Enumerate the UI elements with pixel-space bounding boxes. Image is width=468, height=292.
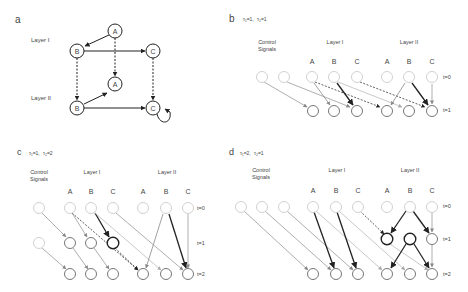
node-t0 (427, 202, 438, 213)
layer2-label: Layer II (400, 39, 419, 45)
node-t1 (329, 106, 340, 117)
node-t0 (86, 203, 97, 214)
time-label: t=1 (443, 107, 451, 113)
label-layer1: Layer I (31, 37, 50, 43)
node-t0 (138, 203, 149, 214)
node-t0 (352, 72, 363, 83)
node-t1 (427, 234, 438, 245)
panel-b: b τ₁=1, τ₂=1 Control Signals Layer I Lay… (229, 13, 451, 117)
column-label: A (68, 188, 73, 195)
node-t0 (404, 72, 415, 83)
node-t0 (405, 202, 416, 213)
column-label: C (185, 188, 190, 195)
node-t0 (34, 203, 45, 214)
node-t2 (86, 269, 97, 280)
layer1-label: Layer I (84, 169, 101, 175)
column-label: A (141, 188, 146, 195)
node-t2 (65, 269, 76, 280)
node-t2 (353, 269, 364, 280)
panel-letter-a: a (15, 14, 21, 25)
panel-letter-d: d (229, 147, 234, 157)
column-label: B (332, 58, 337, 65)
time-label: t=2 (197, 271, 205, 277)
node-t2 (161, 269, 172, 280)
node-t0 (279, 202, 290, 213)
panel-d: d τ₁=2, τ₂=1 Control Signals Layer I Lay… (229, 147, 451, 280)
control-signals-label: Control (258, 39, 276, 45)
node-t0 (382, 72, 393, 83)
column-label: C (110, 188, 115, 195)
column-label: C (355, 187, 360, 194)
node-t0 (236, 202, 247, 213)
tau1-label: τ₁=2, (240, 150, 251, 156)
node-t2 (382, 269, 393, 280)
node-t2 (331, 269, 342, 280)
node-t0 (257, 72, 268, 83)
time-label: t=0 (443, 74, 451, 80)
control-signals-label: Signals (258, 46, 276, 52)
node-t0 (257, 202, 268, 213)
node-label: A (113, 28, 118, 35)
node-t0 (183, 203, 194, 214)
control-signals-label: Signals (30, 176, 48, 182)
column-label: C (429, 187, 434, 194)
figure-canvas: a Layer I Layer II A B C A B (0, 0, 468, 292)
node-label: C (150, 48, 155, 55)
node-t0 (427, 72, 438, 83)
node-t1 (382, 106, 393, 117)
control-signals-label: Control (252, 167, 270, 173)
layer2-label: Layer II (158, 169, 177, 175)
node-t2 (183, 269, 194, 280)
panel-letter-c: c (17, 147, 22, 157)
column-label: C (354, 58, 359, 65)
node-t0 (308, 202, 319, 213)
tau1-label: τ₁=1, (243, 16, 254, 22)
node-label: C (150, 105, 155, 112)
tau2-label: τ₂=1 (257, 16, 267, 22)
time-label: t=1 (197, 240, 205, 246)
node-t1-highlight (107, 237, 119, 249)
node-t2 (427, 269, 438, 280)
control-signals-label: Signals (252, 174, 270, 180)
node-t1 (65, 238, 76, 249)
column-label: C (429, 58, 434, 65)
node-t1 (352, 106, 363, 117)
tau2-label: τ₂=2 (43, 150, 53, 156)
node-t2 (108, 269, 119, 280)
node-t0 (279, 72, 290, 83)
column-label: B (164, 188, 169, 195)
panel-c: c τ₁=1, τ₂=2 Control Signals Layer I Lay… (17, 147, 205, 280)
panel-a: a Layer I Layer II A B C A B (15, 14, 170, 122)
time-label: t=0 (197, 205, 205, 211)
node-t1-highlight (404, 233, 416, 245)
column-label: B (89, 188, 94, 195)
node-t0 (307, 72, 318, 83)
label-layer2: Layer II (31, 95, 51, 101)
node-t0 (382, 202, 393, 213)
panel-letter-b: b (229, 13, 235, 24)
time-label: t=1 (443, 236, 451, 242)
node-t1 (427, 106, 438, 117)
layer1-label: Layer I (329, 167, 346, 173)
node-t0 (108, 203, 119, 214)
node-label: B (75, 105, 80, 112)
node-t1 (404, 106, 415, 117)
node-t2 (138, 269, 149, 280)
time-label: t=2 (443, 271, 451, 277)
layer1-label: Layer I (327, 39, 344, 45)
node-t0 (331, 202, 342, 213)
column-label: A (385, 58, 390, 65)
node-t0 (65, 203, 76, 214)
node-t1 (308, 106, 319, 117)
column-label: A (385, 187, 390, 194)
node-t0 (161, 203, 172, 214)
node-t2 (405, 269, 416, 280)
node-label: A (113, 81, 118, 88)
column-label: B (408, 187, 413, 194)
control-signals-label: Control (30, 169, 48, 175)
column-label: B (334, 187, 339, 194)
node-label: B (75, 48, 80, 55)
node-t0 (353, 202, 364, 213)
column-label: A (311, 187, 316, 194)
tau1-label: τ₁=1, (29, 150, 40, 156)
